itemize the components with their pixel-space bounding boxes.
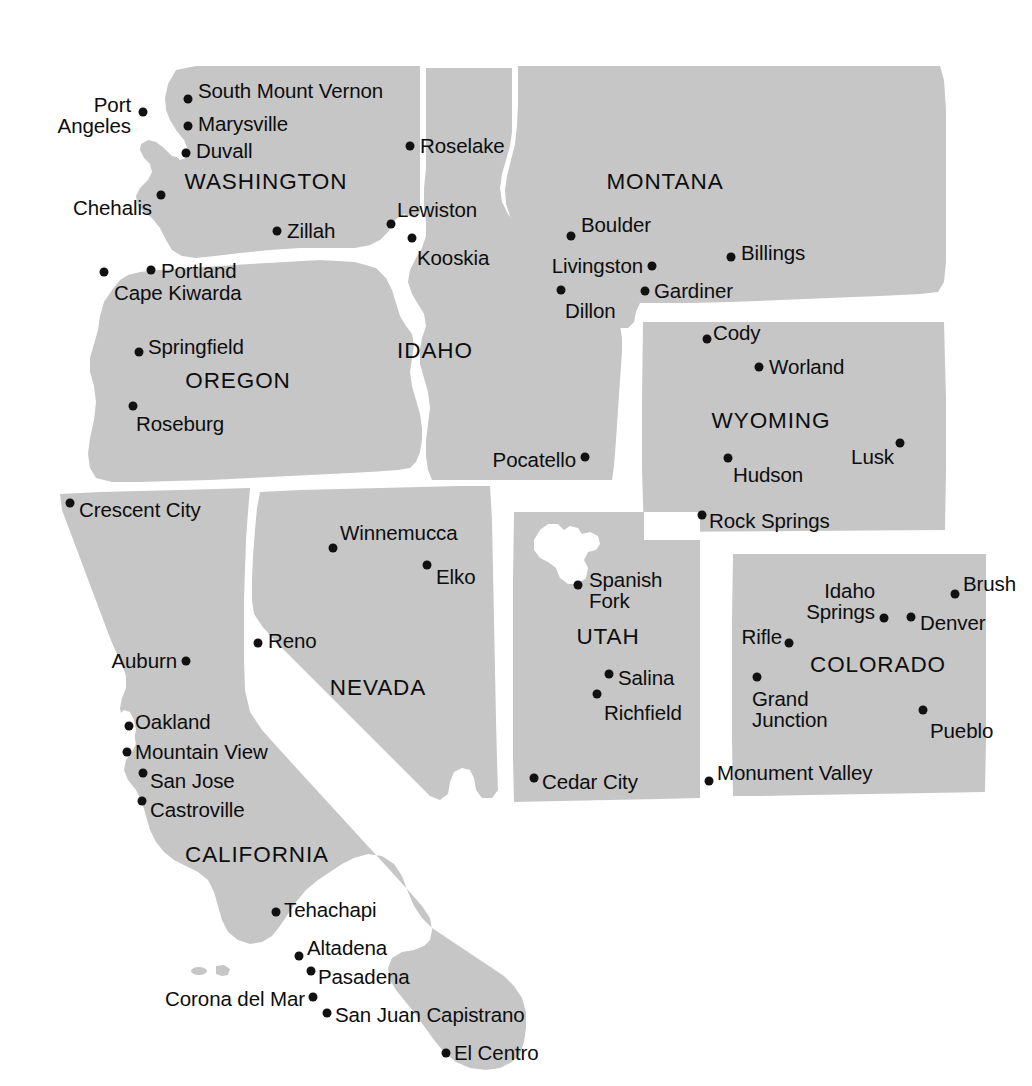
city-label-lusk[interactable]: Lusk	[851, 446, 894, 467]
city-label-winnemucca[interactable]: Winnemucca	[340, 522, 458, 543]
city-label-rifle[interactable]: Rifle	[741, 626, 782, 647]
city-dot-denver[interactable]	[907, 613, 916, 622]
city-dot-richfield[interactable]	[593, 690, 602, 699]
city-label-san-jose[interactable]: San Jose	[150, 770, 235, 791]
city-label-pasadena[interactable]: Pasadena	[318, 966, 410, 987]
city-dot-worland[interactable]	[755, 363, 764, 372]
city-label-san-juan-capistrano[interactable]: San Juan Capistrano	[335, 1004, 525, 1025]
city-dot-pueblo[interactable]	[919, 706, 928, 715]
city-dot-cedar-city[interactable]	[530, 774, 539, 783]
city-dot-castroville[interactable]	[138, 797, 147, 806]
city-dot-elko[interactable]	[423, 561, 432, 570]
city-label-auburn[interactable]: Auburn	[111, 650, 177, 671]
city-dot-billings[interactable]	[727, 253, 736, 262]
city-label-cedar-city[interactable]: Cedar City	[542, 771, 638, 792]
city-dot-lewiston[interactable]	[387, 220, 396, 229]
city-label-duvall[interactable]: Duvall	[196, 140, 252, 161]
city-label-portland[interactable]: Portland	[161, 260, 237, 281]
city-dot-boulder[interactable]	[567, 232, 576, 241]
city-label-livingston[interactable]: Livingston	[552, 255, 643, 276]
city-label-corona-del-mar[interactable]: Corona del Mar	[165, 988, 305, 1009]
city-dot-dillon[interactable]	[557, 286, 566, 295]
city-dot-oakland[interactable]	[125, 722, 134, 731]
city-dot-winnemucca[interactable]	[329, 544, 338, 553]
city-dot-mountain-view[interactable]	[123, 748, 132, 757]
city-dot-el-centro[interactable]	[442, 1049, 451, 1058]
city-dot-rifle[interactable]	[785, 639, 794, 648]
city-dot-marysville[interactable]	[184, 122, 193, 131]
city-dot-portland[interactable]	[147, 266, 156, 275]
city-label-oakland[interactable]: Oakland	[135, 711, 211, 732]
city-label-billings[interactable]: Billings	[741, 242, 805, 263]
city-dot-roselake[interactable]	[406, 142, 415, 151]
city-dot-springfield[interactable]	[135, 348, 144, 357]
city-dot-crescent-city[interactable]	[66, 499, 75, 508]
city-label-pocatello[interactable]: Pocatello	[493, 449, 576, 470]
city-label-roseburg[interactable]: Roseburg	[136, 413, 224, 434]
city-dot-brush[interactable]	[951, 590, 960, 599]
city-dot-chehalis[interactable]	[157, 191, 166, 200]
city-label-idaho-springs[interactable]: Idaho Springs	[806, 580, 875, 623]
city-label-altadena[interactable]: Altadena	[307, 937, 387, 958]
city-label-cape-kiwarda[interactable]: Cape Kiwarda	[114, 282, 242, 303]
city-label-hudson[interactable]: Hudson	[733, 464, 803, 485]
city-label-lewiston[interactable]: Lewiston	[397, 199, 477, 220]
city-label-castroville[interactable]: Castroville	[150, 799, 245, 820]
city-label-chehalis[interactable]: Chehalis	[73, 197, 152, 218]
city-dot-auburn[interactable]	[182, 657, 191, 666]
city-dot-kooskia[interactable]	[408, 234, 417, 243]
city-dot-gardiner[interactable]	[641, 287, 650, 296]
city-label-cody[interactable]: Cody	[713, 322, 760, 343]
city-dot-port-angeles[interactable]	[139, 108, 148, 117]
city-label-reno[interactable]: Reno	[268, 630, 317, 651]
city-label-springfield[interactable]: Springfield	[148, 336, 244, 357]
city-dot-hudson[interactable]	[724, 454, 733, 463]
city-label-boulder[interactable]: Boulder	[581, 214, 651, 235]
city-dot-lusk[interactable]	[896, 439, 905, 448]
city-dot-monument-valley[interactable]	[705, 777, 714, 786]
city-dot-tehachapi[interactable]	[272, 908, 281, 917]
city-dot-duvall[interactable]	[182, 149, 191, 158]
city-label-worland[interactable]: Worland	[769, 356, 844, 377]
city-dot-spanish-fork[interactable]	[574, 581, 583, 590]
city-dot-south-mount-vernon[interactable]	[184, 95, 193, 104]
city-label-gardiner[interactable]: Gardiner	[654, 280, 733, 301]
city-dot-salina[interactable]	[605, 670, 614, 679]
city-label-crescent-city[interactable]: Crescent City	[79, 499, 201, 520]
city-label-grand-junction[interactable]: Grand Junction	[752, 688, 828, 731]
city-label-dillon[interactable]: Dillon	[565, 300, 616, 321]
city-dot-zillah[interactable]	[273, 227, 282, 236]
city-dot-pocatello[interactable]	[581, 453, 590, 462]
city-dot-pasadena[interactable]	[307, 967, 316, 976]
city-dot-cody[interactable]	[703, 335, 712, 344]
city-label-zillah[interactable]: Zillah	[287, 220, 335, 241]
city-label-kooskia[interactable]: Kooskia	[417, 247, 489, 268]
city-label-marysville[interactable]: Marysville	[198, 113, 288, 134]
city-label-spanish-fork[interactable]: Spanish Fork	[589, 569, 662, 612]
city-dot-san-jose[interactable]	[139, 769, 148, 778]
city-label-elko[interactable]: Elko	[436, 566, 475, 587]
city-label-pueblo[interactable]: Pueblo	[930, 720, 993, 741]
city-dot-reno[interactable]	[254, 639, 263, 648]
city-dot-roseburg[interactable]	[129, 402, 138, 411]
city-label-richfield[interactable]: Richfield	[604, 702, 682, 723]
city-dot-livingston[interactable]	[648, 262, 657, 271]
city-label-rock-springs[interactable]: Rock Springs	[709, 510, 830, 531]
city-dot-altadena[interactable]	[295, 952, 304, 961]
city-label-denver[interactable]: Denver	[920, 612, 986, 633]
city-label-south-mount-vernon[interactable]: South Mount Vernon	[198, 80, 383, 101]
city-dot-corona-del-mar[interactable]	[309, 993, 318, 1002]
city-label-salina[interactable]: Salina	[618, 667, 674, 688]
city-label-roselake[interactable]: Roselake	[420, 135, 505, 156]
city-label-tehachapi[interactable]: Tehachapi	[284, 899, 377, 920]
city-label-monument-valley[interactable]: Monument Valley	[717, 762, 872, 783]
city-dot-san-juan-capistrano[interactable]	[323, 1009, 332, 1018]
city-dot-grand-junction[interactable]	[753, 673, 762, 682]
city-label-el-centro[interactable]: El Centro	[454, 1042, 539, 1063]
city-dot-cape-kiwarda[interactable]	[100, 268, 109, 277]
city-label-port-angeles[interactable]: Port Angeles	[58, 94, 131, 137]
city-dot-idaho-springs[interactable]	[880, 614, 889, 623]
city-label-mountain-view[interactable]: Mountain View	[135, 741, 268, 762]
city-label-brush[interactable]: Brush	[963, 573, 1016, 594]
city-dot-rock-springs[interactable]	[698, 511, 707, 520]
